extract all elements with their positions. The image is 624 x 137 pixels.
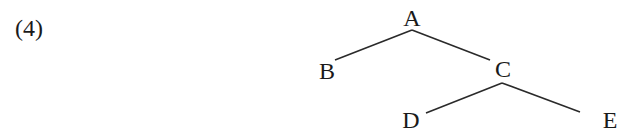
- node-d: D: [402, 107, 419, 133]
- edge-c-d: [426, 83, 502, 113]
- node-e: E: [603, 107, 618, 133]
- node-c: C: [495, 56, 511, 82]
- edge-a-b: [335, 30, 412, 60]
- edges-layer: [335, 30, 580, 113]
- edge-c-e: [502, 83, 580, 112]
- tree-diagram: ABCDE: [0, 0, 624, 137]
- nodes-layer: ABCDE: [319, 5, 617, 133]
- node-b: B: [319, 58, 335, 84]
- edge-a-c: [412, 30, 490, 60]
- node-a: A: [403, 5, 421, 31]
